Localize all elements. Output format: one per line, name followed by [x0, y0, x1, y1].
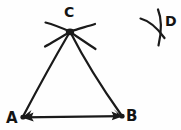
arc-c-upper-right	[70, 24, 95, 32]
label-c: C	[64, 4, 74, 20]
arc-d-vertical	[158, 10, 161, 46]
label-b: B	[126, 107, 137, 125]
arc-c-upper-left	[46, 23, 70, 32]
vertex-dot-a	[20, 115, 25, 120]
arc-crossing-at-c	[45, 23, 96, 50]
geometry-figure-canvas: A B C D	[0, 0, 181, 130]
segment-ab	[22, 112, 124, 122]
label-d: D	[165, 13, 177, 29]
label-a: A	[6, 109, 18, 127]
arc-intersection-dot-c	[66, 28, 74, 35]
construction-sketch: A B C D	[0, 0, 181, 130]
vertex-dot-b	[119, 114, 124, 119]
segment-cb	[71, 33, 123, 117]
arc-crossing-at-d	[141, 10, 165, 46]
